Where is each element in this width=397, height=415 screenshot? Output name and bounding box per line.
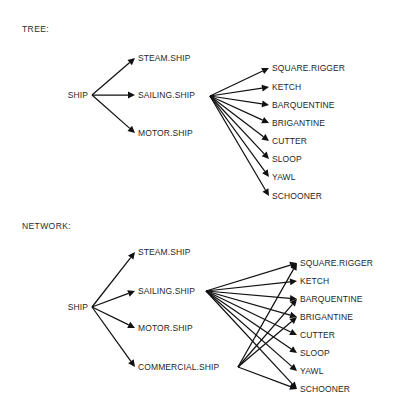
network-edge-sailing-ship-to-schooner xyxy=(206,291,297,389)
tree-section-heading: TREE: xyxy=(22,24,49,34)
network-edge-commercial-ship-to-schooner xyxy=(238,367,297,390)
tree-leaf-schooner: SCHOONER xyxy=(272,191,322,201)
tree-node-motor-ship: MOTOR.SHIP xyxy=(138,128,193,138)
diagram-canvas: TREE: SHIP STEAM.SHIP SAILING.SHIP MOTOR… xyxy=(0,0,397,415)
network-leaf-brigantine: BRIGANTINE xyxy=(300,312,353,322)
tree-edge-ship-to-steam-ship xyxy=(92,58,135,95)
tree-leaf-barquentine: BARQUENTINE xyxy=(272,100,335,110)
network-node-steam-ship: STEAM.SHIP xyxy=(138,247,190,257)
network-edge-commercial-ship-to-brigantine xyxy=(238,317,297,367)
network-edge-ship-to-commercial-ship xyxy=(92,307,135,367)
tree-edge-ship-to-motor-ship xyxy=(92,95,135,133)
network-leaf-square-rigger: SQUARE.RIGGER xyxy=(300,258,373,268)
network-section-heading: NETWORK: xyxy=(22,221,71,231)
network-node-commercial-ship: COMMERCIAL.SHIP xyxy=(138,362,219,372)
network-node-ship: SHIP xyxy=(68,302,88,312)
network-edge-sailing-ship-to-yawl xyxy=(206,291,297,371)
network-leaf-cutter: CUTTER xyxy=(300,330,335,340)
network-leaf-sloop: SLOOP xyxy=(300,348,330,358)
tree-edge-sailing-ship-to-sloop xyxy=(210,96,269,159)
tree-leaf-yawl: YAWL xyxy=(272,172,296,182)
tree-node-sailing-ship: SAILING.SHIP xyxy=(138,90,195,100)
tree-leaf-cutter: CUTTER xyxy=(272,136,307,146)
tree-leaf-sloop: SLOOP xyxy=(272,154,302,164)
network-edge-sailing-ship-to-ketch xyxy=(206,278,297,291)
tree-leaf-square-rigger: SQUARE.RIGGER xyxy=(272,63,345,73)
tree-edge-sailing-ship-to-ketch xyxy=(210,85,269,96)
network-node-motor-ship: MOTOR.SHIP xyxy=(138,323,193,333)
network-leaf-ketch: KETCH xyxy=(300,276,329,286)
tree-node-steam-ship: STEAM.SHIP xyxy=(138,53,190,63)
tree-node-ship: SHIP xyxy=(68,90,88,100)
tree-edge-sailing-ship-to-schooner xyxy=(210,96,269,196)
network-leaf-yawl: YAWL xyxy=(300,366,324,376)
network-leaf-schooner: SCHOONER xyxy=(300,384,350,394)
tree-edge-sailing-ship-to-yawl xyxy=(210,96,269,177)
tree-leaf-ketch: KETCH xyxy=(272,82,301,92)
tree-leaf-brigantine: BRIGANTINE xyxy=(272,118,325,128)
network-edge-ship-to-motor-ship xyxy=(92,307,135,328)
tree-edge-ship-to-sailing-ship xyxy=(92,92,135,99)
network-leaf-barquentine: BARQUENTINE xyxy=(300,294,363,304)
network-node-sailing-ship: SAILING.SHIP xyxy=(138,286,195,296)
